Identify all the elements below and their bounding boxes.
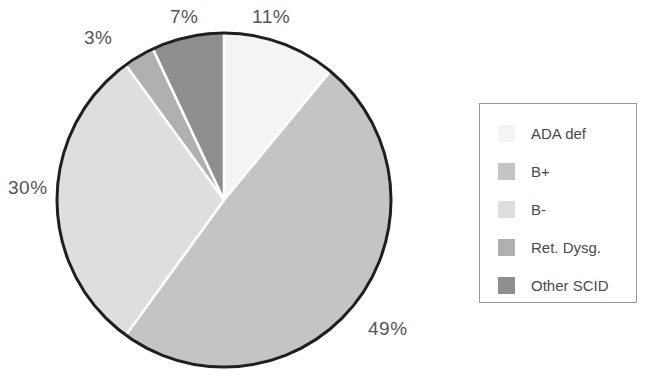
slice-label-ada-def: 11% xyxy=(252,6,290,28)
slice-label-ret-dysg: 3% xyxy=(84,27,112,49)
legend-label: B- xyxy=(531,201,546,218)
legend-label: Other SCID xyxy=(531,277,609,294)
legend-label: Ret. Dysg. xyxy=(531,239,601,256)
legend-swatch xyxy=(498,201,515,218)
pie-chart-plot-area: 7% 11% 3% 30% 49% xyxy=(0,0,450,382)
legend-item: B+ xyxy=(498,152,636,190)
legend-label: ADA def xyxy=(531,125,586,142)
slice-label-b-minus: 30% xyxy=(8,177,48,199)
chart-legend: ADA defB+B-Ret. Dysg.Other SCID xyxy=(479,103,637,303)
legend-item: ADA def xyxy=(498,114,636,152)
slice-label-b-plus: 49% xyxy=(368,318,408,340)
legend-label: B+ xyxy=(531,163,550,180)
legend-item: Ret. Dysg. xyxy=(498,228,636,266)
slice-label-other-scid: 7% xyxy=(170,6,198,28)
pie-slice-group xyxy=(57,33,391,367)
legend-item: B- xyxy=(498,190,636,228)
legend-item: Other SCID xyxy=(498,266,636,304)
legend-swatch xyxy=(498,277,515,294)
legend-swatch xyxy=(498,239,515,256)
pie-chart-figure: 7% 11% 3% 30% 49% ADA defB+B-Ret. Dysg.O… xyxy=(0,0,650,382)
legend-swatch xyxy=(498,163,515,180)
legend-swatch xyxy=(498,125,515,142)
